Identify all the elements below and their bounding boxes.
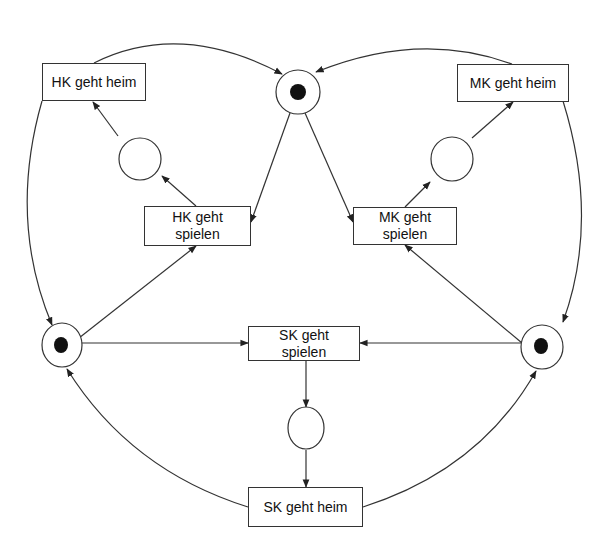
arc-mk-place-to-mk-heim: [472, 102, 513, 138]
arc-sk-heim-to-left-place: [67, 369, 248, 507]
transition-mk-geht-spielen: MK geht spielen: [353, 207, 457, 245]
transition-mk-geht-heim: MK geht heim: [457, 64, 569, 102]
transition-label-line2: spielen: [383, 226, 427, 243]
transition-sk-geht-spielen: SK geht spielen: [248, 326, 360, 361]
transition-label-line2: spielen: [175, 226, 219, 243]
arc-mk-spielen-to-mk-place: [405, 182, 430, 207]
transition-label-line1: MK geht: [379, 209, 431, 226]
arc-mk-heim-to-right-place: [563, 101, 582, 322]
place-hk: [119, 138, 161, 180]
arc-sk-heim-to-right-place: [363, 371, 536, 507]
transition-label: SK geht heim: [263, 499, 347, 516]
transition-hk-geht-spielen: HK geht spielen: [144, 206, 251, 246]
transition-label-line2: spielen: [282, 344, 326, 361]
arc-left-place-to-hk-spielen: [79, 246, 196, 338]
place-mk: [431, 137, 473, 181]
token-top: [290, 84, 306, 100]
transition-label: MK geht heim: [470, 75, 556, 92]
transition-hk-geht-heim: HK geht heim: [42, 63, 146, 101]
arc-hk-place-to-hk-heim: [93, 102, 118, 136]
arc-right-place-to-mk-spielen: [405, 245, 522, 343]
arc-hk-spielen-to-hk-place: [162, 176, 196, 206]
place-sk: [288, 407, 324, 449]
arc-hk-heim-to-left-place: [27, 101, 52, 325]
transition-sk-geht-heim: SK geht heim: [248, 487, 363, 527]
arc-top-place-to-hk-spielen: [251, 113, 290, 222]
token-right: [534, 338, 548, 354]
transition-label-line1: SK geht: [279, 327, 329, 344]
transition-label-line1: HK geht: [172, 209, 223, 226]
arc-top-place-to-mk-spielen: [305, 113, 353, 222]
petri-net-diagram: HK geht heim MK geht heim HK geht spiele…: [0, 0, 607, 555]
transition-label: HK geht heim: [52, 74, 137, 91]
token-left: [54, 337, 68, 353]
